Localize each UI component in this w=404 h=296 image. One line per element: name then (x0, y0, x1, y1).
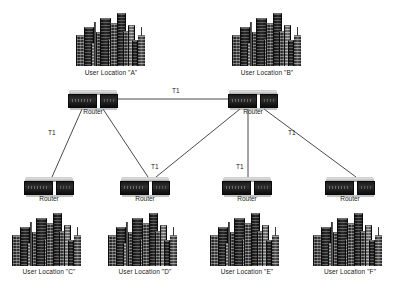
network-diagram-canvas: User Location "A"RouterUser Location "B"… (0, 0, 404, 296)
user-location-e-city-icon[interactable] (210, 212, 284, 266)
router-node-f[interactable] (325, 177, 375, 196)
router-icon (24, 177, 74, 196)
antenna-tower-icon (74, 235, 81, 266)
router-panel-left (222, 181, 251, 195)
link-label-a-c: T1 (48, 129, 56, 137)
user-location-b-city-icon[interactable] (232, 12, 306, 66)
router-label-e: Router (211, 195, 283, 203)
user-location-d-city-icon[interactable] (108, 212, 182, 266)
mast-icon (94, 22, 96, 66)
network-link-b-d[interactable] (156, 109, 240, 177)
antenna-tower-icon (138, 35, 145, 66)
city-skyline-icon (12, 212, 86, 266)
router-panel-right (100, 94, 118, 108)
city-skyline-icon (108, 212, 182, 266)
router-panel-right (260, 94, 278, 108)
link-label-b-f: T1 (288, 129, 296, 137)
network-link-a-d[interactable] (103, 109, 148, 177)
router-icon (228, 90, 278, 109)
router-panel-left (120, 181, 149, 195)
user-location-a-city-icon[interactable] (76, 12, 150, 66)
router-label-f: Router (314, 195, 386, 203)
mast-icon (250, 22, 252, 66)
router-label-c: Router (13, 195, 85, 203)
user-location-label-f: User Location "F" (289, 268, 404, 276)
router-panel-left (228, 94, 257, 108)
router-node-c[interactable] (24, 177, 74, 196)
router-panel-right (357, 181, 375, 195)
mast-icon (126, 222, 128, 266)
mast-icon (331, 222, 333, 266)
router-panel-left (325, 181, 354, 195)
link-label-a-b: T1 (172, 87, 180, 95)
router-node-d[interactable] (120, 177, 170, 196)
antenna-tower-icon (170, 235, 177, 266)
router-node-e[interactable] (222, 177, 272, 196)
router-icon (325, 177, 375, 196)
router-panel-right (56, 181, 74, 195)
antenna-tower-icon (272, 235, 279, 266)
city-skyline-icon (313, 212, 387, 266)
city-skyline-icon (232, 12, 306, 66)
city-skyline-icon (210, 212, 284, 266)
mast-icon (30, 222, 32, 266)
router-label-b: Router (217, 108, 289, 116)
network-link-a-c[interactable] (52, 109, 82, 177)
router-node-a[interactable] (68, 90, 118, 109)
user-location-f-city-icon[interactable] (313, 212, 387, 266)
network-link-b-f[interactable] (264, 109, 356, 177)
antenna-tower-icon (294, 35, 301, 66)
router-label-a: Router (57, 108, 129, 116)
router-node-b[interactable] (228, 90, 278, 109)
mast-icon (228, 222, 230, 266)
user-location-label-b: User Location "B" (206, 69, 328, 77)
user-location-label-a: User Location "A" (50, 69, 172, 77)
router-icon (120, 177, 170, 196)
router-panel-left (24, 181, 53, 195)
city-skyline-icon (76, 12, 150, 66)
link-label-b-e: T1 (236, 163, 244, 171)
router-label-d: Router (109, 195, 181, 203)
user-location-c-city-icon[interactable] (12, 212, 86, 266)
router-panel-right (254, 181, 272, 195)
link-label-b-d: T1 (151, 163, 159, 171)
router-icon (222, 177, 272, 196)
router-panel-right (152, 181, 170, 195)
router-icon (68, 90, 118, 109)
antenna-tower-icon (375, 235, 382, 266)
router-panel-left (68, 94, 97, 108)
